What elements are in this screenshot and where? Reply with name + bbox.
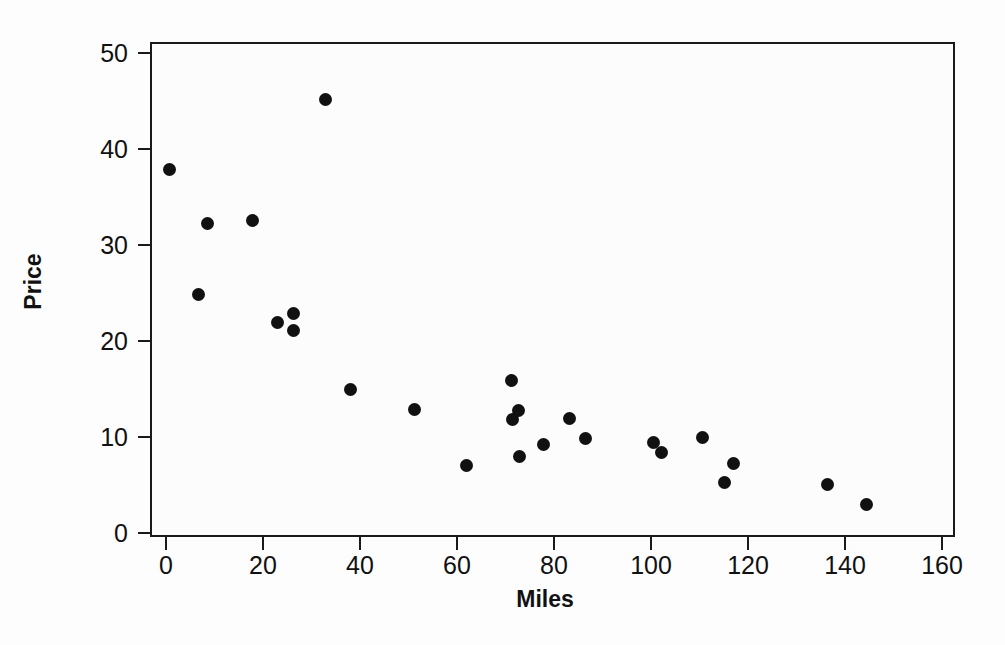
- data-point: [512, 404, 525, 417]
- y-axis-tick-label-text: 30: [48, 233, 128, 258]
- x-axis-tick: [650, 537, 652, 550]
- y-axis-title: Price: [20, 222, 47, 342]
- x-axis-tick: [165, 537, 167, 550]
- data-point: [319, 93, 332, 106]
- data-point: [718, 476, 731, 489]
- data-point: [287, 307, 300, 320]
- data-point: [655, 446, 668, 459]
- scatter-plot-figure: 01020304050 020406080100120140160 Miles …: [0, 0, 1005, 645]
- data-point: [246, 214, 259, 227]
- x-axis-tick-label: 0: [121, 553, 211, 578]
- x-axis-tick-label: 80: [509, 553, 599, 578]
- y-axis-tick: [138, 244, 150, 246]
- x-axis-tick-label: 120: [703, 553, 793, 578]
- x-axis-tick-label: 140: [800, 553, 890, 578]
- x-axis-title: Miles: [455, 586, 635, 613]
- data-point: [287, 324, 300, 337]
- y-axis-tick-label-text: 20: [48, 329, 128, 354]
- x-axis-tick-label: 60: [412, 553, 502, 578]
- x-axis-tick-label: 20: [218, 553, 308, 578]
- x-axis-tick-label: 160: [897, 553, 987, 578]
- y-axis-tick-label-text: 0: [48, 521, 128, 546]
- data-point: [860, 498, 873, 511]
- y-axis-tick: [138, 52, 150, 54]
- data-point: [821, 478, 834, 491]
- data-point: [163, 163, 176, 176]
- data-point: [513, 450, 526, 463]
- x-axis-tick: [553, 537, 555, 550]
- data-point: [408, 403, 421, 416]
- x-axis-tick: [747, 537, 749, 550]
- y-axis-tick: [138, 148, 150, 150]
- data-point: [271, 316, 284, 329]
- x-axis-tick: [844, 537, 846, 550]
- y-axis-tick: [138, 532, 150, 534]
- data-point: [344, 383, 357, 396]
- data-point: [460, 459, 473, 472]
- x-axis-tick: [456, 537, 458, 550]
- x-axis-tick: [359, 537, 361, 550]
- x-axis-tick-label: 40: [315, 553, 405, 578]
- y-axis-tick-label-text: 40: [48, 137, 128, 162]
- x-axis-tick: [941, 537, 943, 550]
- plot-area: [150, 42, 955, 537]
- y-axis-tick-label-text: 50: [48, 41, 128, 66]
- y-axis-tick: [138, 340, 150, 342]
- x-axis-tick: [262, 537, 264, 550]
- y-axis-tick: [138, 436, 150, 438]
- x-axis-tick-label: 100: [606, 553, 696, 578]
- y-axis-tick-label-text: 10: [48, 425, 128, 450]
- data-point: [579, 432, 592, 445]
- data-point: [563, 412, 576, 425]
